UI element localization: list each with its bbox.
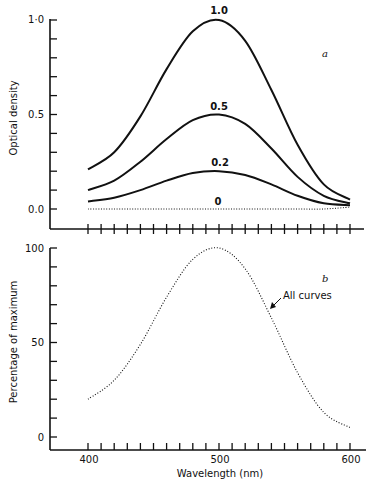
absorption-spectra-figure: 1·0 0.5 0.0 Optical density 1.0 0.5 0.2 … — [0, 0, 382, 481]
panel-a-ytick-0-5: 0.5 — [28, 109, 44, 120]
panel-b-curves — [88, 248, 350, 428]
panel-a-curves — [88, 20, 350, 209]
annotation-arrow-icon — [270, 298, 281, 309]
curve-label-0-2: 0.2 — [211, 157, 229, 168]
all-curves-annotation: All curves — [283, 290, 332, 301]
panel-b-ytick-0: 0 — [38, 432, 44, 443]
panel-a-ytick-1: 1·0 — [28, 14, 44, 25]
curve-label-1-0: 1.0 — [210, 5, 228, 16]
panel-a-y-label: Optical density — [8, 80, 19, 155]
curve-label-0: 0 — [215, 196, 222, 207]
panel-b-letter: b — [322, 273, 328, 284]
panel-a-x-ticks — [88, 224, 350, 234]
curve-label-0-5: 0.5 — [210, 101, 228, 112]
xtick-500: 500 — [210, 454, 229, 465]
panel-a-ytick-0: 0.0 — [28, 204, 44, 215]
panel-a: 1·0 0.5 0.0 Optical density 1.0 0.5 0.2 … — [8, 5, 364, 234]
panel-b-x-ticks — [88, 443, 350, 450]
panel-b-y-ticks — [50, 248, 57, 437]
xtick-400: 400 — [79, 454, 98, 465]
panel-b-y-label: Percentage of maximum — [8, 281, 19, 404]
panel-a-y-ticks — [50, 20, 57, 209]
panel-b-ytick-50: 50 — [31, 337, 44, 348]
panel-b: 100 50 0 Percentage of maximum 400 500 6… — [8, 243, 366, 479]
x-axis-label: Wavelength (nm) — [177, 468, 263, 479]
curve-0 — [88, 207, 350, 209]
curve-all-normalized — [88, 248, 350, 428]
xtick-600: 600 — [341, 454, 360, 465]
panel-a-letter: a — [322, 48, 328, 59]
panel-b-ytick-100: 100 — [25, 243, 44, 254]
